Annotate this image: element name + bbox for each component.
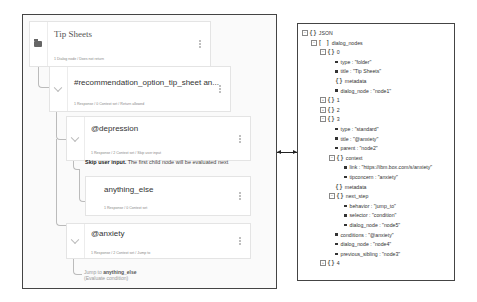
value-bullet-icon bbox=[335, 233, 338, 236]
dialog-node-anxiety[interactable]: @anxiety 1 Response / 2 Context set / Ju… bbox=[66, 223, 251, 259]
json-tree-row[interactable]: −{}context bbox=[329, 154, 363, 162]
json-tree-row: selector : "condition" bbox=[344, 211, 396, 219]
collapse-icon[interactable]: − bbox=[329, 155, 335, 161]
json-tree-row: {}metadata bbox=[335, 77, 366, 85]
json-tree-row: previous_sibling : "node3" bbox=[335, 250, 400, 258]
dialog-node-depression[interactable]: @depression 1 Response / 2 Context set /… bbox=[66, 116, 251, 161]
json-tree-row: behavior : "jump_to" bbox=[344, 202, 396, 210]
json-tree-row[interactable]: +{}1 bbox=[320, 96, 340, 104]
object-icon: {} bbox=[327, 48, 335, 56]
node-meta: 1 Response / 0 Context set bbox=[104, 206, 147, 210]
chevron-down-icon[interactable] bbox=[54, 84, 62, 92]
value-bullet-icon bbox=[344, 205, 347, 208]
json-tree-label: dialog_node : "node5" bbox=[350, 221, 401, 229]
value-bullet-icon bbox=[344, 214, 347, 217]
json-tree-label: behavior : "jump_to" bbox=[350, 202, 396, 210]
json-tree-row[interactable]: −[ ]dialog_nodes bbox=[311, 39, 363, 47]
json-tree-label: dialog_node : "node1" bbox=[341, 87, 392, 95]
node-title: @depression bbox=[91, 124, 138, 133]
overflow-menu-icon[interactable] bbox=[199, 39, 202, 49]
json-tree-label: title : "Tip Sheets" bbox=[341, 67, 382, 75]
json-tree-row: conditions : "@anxiety" bbox=[335, 231, 394, 239]
object-icon: {} bbox=[336, 154, 344, 162]
object-icon: {} bbox=[327, 115, 335, 123]
json-tree-label: 1 bbox=[337, 96, 340, 104]
json-tree-row: type : "standard" bbox=[335, 125, 379, 133]
tree-connector bbox=[73, 258, 82, 275]
node-meta: 1 Response / 2 Context set / Jump to bbox=[91, 251, 150, 255]
json-tree-label: tipconcern : "anxiety" bbox=[350, 173, 398, 181]
json-tree-row: type : "folder" bbox=[335, 58, 371, 66]
value-bullet-icon bbox=[335, 70, 338, 73]
json-tree-label: 4 bbox=[337, 259, 340, 267]
value-bullet-icon bbox=[335, 147, 338, 150]
bidirectional-arrow bbox=[277, 152, 297, 153]
object-icon: {} bbox=[327, 96, 335, 104]
json-tree-row[interactable]: −{}0 bbox=[320, 48, 340, 56]
json-tree-label: link : "https://ibm.box.com/s/anxiety" bbox=[350, 163, 433, 171]
json-tree-row: {}metadata bbox=[335, 183, 366, 191]
node-title: anything_else bbox=[104, 185, 153, 194]
json-tree-row: parent : "node2" bbox=[335, 144, 378, 152]
json-tree-row[interactable]: −{}3 bbox=[320, 115, 340, 123]
array-icon: [ ] bbox=[318, 39, 330, 47]
collapse-icon[interactable]: − bbox=[311, 40, 317, 46]
folder-icon bbox=[34, 41, 42, 47]
json-tree-row[interactable]: −{}JSON bbox=[302, 29, 333, 37]
node-title: Tip Sheets bbox=[54, 29, 92, 39]
json-tree-row: title : "Tip Sheets" bbox=[335, 67, 381, 75]
json-tree-label: next_step bbox=[346, 192, 369, 200]
collapse-icon[interactable]: − bbox=[320, 116, 326, 122]
expand-icon[interactable]: + bbox=[320, 260, 326, 266]
object-icon: {} bbox=[335, 77, 343, 85]
chevron-down-icon[interactable] bbox=[71, 236, 79, 244]
json-tree-label: selector : "condition" bbox=[350, 211, 397, 219]
chevron-down-icon[interactable] bbox=[71, 133, 79, 141]
value-bullet-icon bbox=[335, 243, 338, 246]
dialog-node-tip-sheets[interactable]: Tip Sheets 1 Dialog node / Does not retu… bbox=[29, 21, 211, 67]
json-tree-row[interactable]: −{}next_step bbox=[329, 192, 368, 200]
dialog-tree-panel: Tip Sheets 1 Dialog node / Does not retu… bbox=[22, 14, 277, 289]
expand-icon[interactable]: + bbox=[320, 97, 326, 103]
object-icon: {} bbox=[327, 259, 335, 267]
json-tree-label: context bbox=[346, 154, 363, 162]
json-tree-label: type : "folder" bbox=[341, 58, 372, 66]
json-tree-label: 3 bbox=[337, 115, 340, 123]
object-icon: {} bbox=[335, 183, 343, 191]
dialog-node-recommendation[interactable]: #recommendation_option_tip_sheet an... 1… bbox=[49, 66, 231, 112]
json-tree-row[interactable]: +{}4 bbox=[320, 259, 340, 267]
jump-to-note: Jump to anything_else (Evaluate conditio… bbox=[84, 269, 137, 281]
json-tree-label: 2 bbox=[337, 106, 340, 114]
json-tree-label: dialog_node : "node4" bbox=[341, 240, 392, 248]
json-tree-label: previous_sibling : "node3" bbox=[341, 250, 401, 258]
expand-icon[interactable]: + bbox=[320, 107, 326, 113]
overflow-menu-icon[interactable] bbox=[239, 236, 242, 246]
json-tree-row: dialog_node : "node1" bbox=[335, 87, 391, 95]
node-meta: 1 Response / 0 Context set / Return allo… bbox=[74, 102, 144, 106]
node-title: #recommendation_option_tip_sheet an... bbox=[74, 78, 219, 87]
json-tree-label: conditions : "@anxiety" bbox=[341, 231, 394, 239]
overflow-menu-icon[interactable] bbox=[219, 84, 222, 94]
object-icon: {} bbox=[336, 192, 344, 200]
value-bullet-icon bbox=[335, 89, 338, 92]
node-meta: 1 Response / 2 Context set / Skip user i… bbox=[91, 151, 161, 155]
collapse-icon[interactable]: − bbox=[320, 49, 326, 55]
json-tree-label: parent : "node2" bbox=[341, 144, 378, 152]
json-tree-label: 0 bbox=[337, 48, 340, 56]
overflow-menu-icon[interactable] bbox=[239, 134, 242, 144]
skip-user-input-note: Skip user input. The first child node wi… bbox=[85, 159, 228, 165]
value-bullet-icon bbox=[335, 61, 338, 64]
collapse-icon[interactable]: − bbox=[302, 30, 308, 36]
json-tree-row: title : "@anxiety" bbox=[335, 135, 378, 143]
json-tree-label: type : "standard" bbox=[341, 125, 379, 133]
json-tree-row: link : "https://ibm.box.com/s/anxiety" bbox=[344, 163, 432, 171]
json-tree-row[interactable]: +{}2 bbox=[320, 106, 340, 114]
json-tree-panel: −{}JSON−[ ]dialog_nodes−{}0type : "folde… bbox=[297, 23, 455, 281]
collapse-icon[interactable]: − bbox=[329, 193, 335, 199]
json-tree-label: title : "@anxiety" bbox=[341, 135, 379, 143]
json-tree-label: metadata bbox=[345, 183, 367, 191]
json-tree-label: metadata bbox=[345, 77, 367, 85]
dialog-node-anything-else[interactable]: anything_else 1 Response / 0 Context set bbox=[85, 176, 251, 216]
overflow-menu-icon[interactable] bbox=[239, 191, 242, 201]
value-bullet-icon bbox=[344, 166, 347, 169]
